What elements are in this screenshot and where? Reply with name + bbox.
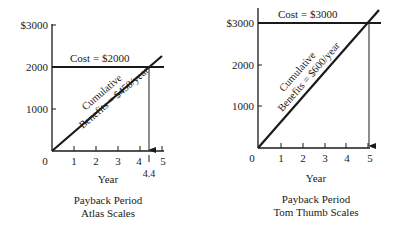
chart-caption-line1: Payback Period	[74, 194, 143, 206]
x-tick-label: 1	[278, 152, 284, 164]
chart-caption-line2: Atlas Scales	[81, 207, 135, 219]
x-axis-label: Year	[306, 172, 327, 184]
y-tick-label: 1000	[232, 100, 255, 112]
x-tick-label: 4	[136, 155, 142, 167]
x-tick-label: 2	[300, 152, 306, 164]
x-axis-label: Year	[98, 173, 119, 185]
y-tick-label: 1000	[26, 103, 49, 115]
x-tick-label: 5	[160, 155, 166, 167]
y-tick-label: $3000	[227, 17, 255, 29]
y-tick-label: $3000	[21, 19, 49, 31]
cost-label: Cost = $3000	[278, 8, 338, 20]
benefits-line	[258, 10, 379, 148]
y-tick-label: 2000	[232, 59, 255, 71]
chart-caption-line1: Payback Period	[282, 193, 351, 205]
x-tick-label: 5	[367, 152, 373, 164]
cost-label: Cost = $2000	[70, 52, 130, 64]
x-tick-label: 0	[249, 152, 255, 164]
y-tick-label: 2000	[26, 61, 49, 73]
x-tick-label: 0	[42, 155, 48, 167]
chart-tom-thumb: $3000 2000 1000 0 1 2 3 4 5 Cost = $3000…	[227, 8, 382, 218]
chart-atlas: $3000 2000 1000 0 1 2 3 4 5 Cost = $2000…	[21, 19, 167, 219]
payback-value-label: 4.4	[143, 168, 156, 179]
x-tick-label: 2	[93, 155, 99, 167]
payback-charts: $3000 2000 1000 0 1 2 3 4 5 Cost = $2000…	[0, 0, 397, 234]
x-tick-label: 1	[71, 155, 77, 167]
x-tick-label: 4	[344, 152, 350, 164]
chart-caption-line2: Tom Thumb Scales	[273, 206, 358, 218]
x-tick-label: 3	[322, 152, 328, 164]
x-tick-label: 3	[115, 155, 121, 167]
